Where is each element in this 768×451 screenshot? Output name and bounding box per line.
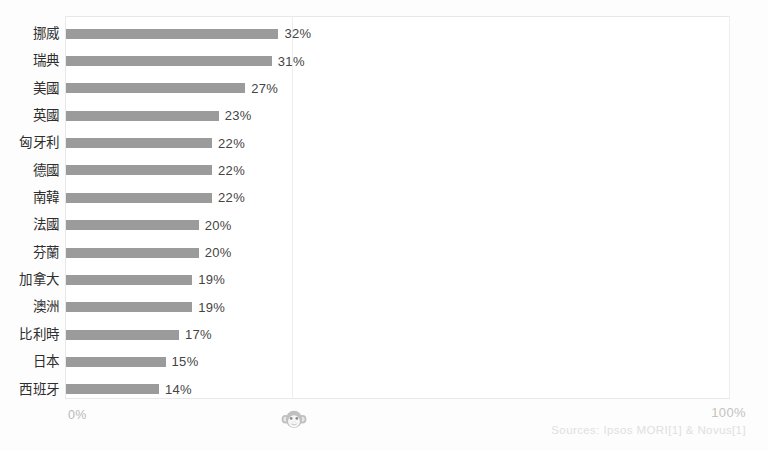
bar [66, 275, 192, 285]
bar-track: 20% [66, 212, 730, 239]
bar-row: 南韓22% [0, 184, 768, 211]
bar-value-label: 22% [218, 190, 245, 205]
bar [66, 165, 212, 175]
bar-value-label: 22% [218, 136, 245, 151]
bar [66, 193, 212, 203]
bar [66, 29, 278, 39]
bar-row: 日本15% [0, 348, 768, 375]
bar-row: 澳洲19% [0, 294, 768, 321]
bar-track: 17% [66, 321, 730, 348]
bar-value-label: 22% [218, 163, 245, 178]
bar-track: 22% [66, 129, 730, 156]
bar-row: 芬蘭20% [0, 239, 768, 266]
bar-track: 19% [66, 266, 730, 293]
bar-category-label: 美國 [0, 82, 59, 96]
bar-category-label: 挪威 [0, 27, 59, 41]
bar [66, 357, 166, 367]
bar [66, 138, 212, 148]
bar-track: 31% [66, 47, 730, 74]
bar-track: 14% [66, 376, 730, 403]
bar [66, 248, 199, 258]
bar [66, 330, 179, 340]
bar [66, 384, 159, 394]
bar-track: 23% [66, 102, 730, 129]
bar-track: 19% [66, 294, 730, 321]
bar [66, 111, 219, 121]
bar-category-label: 日本 [0, 355, 59, 369]
bar-row: 匈牙利22% [0, 129, 768, 156]
bar-value-label: 20% [205, 218, 232, 233]
bar-track: 22% [66, 184, 730, 211]
bar-row: 瑞典31% [0, 47, 768, 74]
bar-track: 32% [66, 20, 730, 47]
bar-category-label: 法國 [0, 218, 59, 232]
bar [66, 56, 272, 66]
bar-category-label: 德國 [0, 164, 59, 178]
bar-value-label: 19% [198, 300, 225, 315]
monkey-face-icon [281, 407, 307, 433]
bar-track: 15% [66, 348, 730, 375]
source-attribution: Sources: Ipsos MORI[1] & Novus[1] [551, 424, 746, 436]
bar-category-label: 南韓 [0, 191, 59, 205]
bar-track: 20% [66, 239, 730, 266]
bar [66, 302, 192, 312]
bar-value-label: 23% [225, 108, 252, 123]
bar-row: 美國27% [0, 75, 768, 102]
bar-row: 西班牙14% [0, 376, 768, 403]
bar-value-label: 17% [185, 327, 212, 342]
bar-track: 22% [66, 157, 730, 184]
bar-category-label: 比利時 [0, 328, 59, 342]
bar-category-label: 西班牙 [0, 383, 59, 397]
x-axis-max-label: 100% [711, 405, 746, 420]
bar-value-label: 14% [165, 382, 192, 397]
bar-category-label: 匈牙利 [0, 136, 59, 150]
bar-row: 加拿大19% [0, 266, 768, 293]
bar-value-label: 19% [198, 272, 225, 287]
bar-category-label: 澳洲 [0, 300, 59, 314]
bar-value-label: 27% [251, 81, 278, 96]
bar-row: 挪威32% [0, 20, 768, 47]
bar-row: 英國23% [0, 102, 768, 129]
bar-rows-container: 挪威32%瑞典31%美國27%英國23%匈牙利22%德國22%南韓22%法國20… [0, 16, 768, 399]
bar-row: 法國20% [0, 212, 768, 239]
bar-category-label: 芬蘭 [0, 246, 59, 260]
bar-row: 德國22% [0, 157, 768, 184]
bar-track: 27% [66, 75, 730, 102]
bar-category-label: 加拿大 [0, 273, 59, 287]
bar-value-label: 31% [278, 54, 305, 69]
bar-value-label: 20% [205, 245, 232, 260]
bar [66, 83, 245, 93]
bar [66, 220, 199, 230]
bar-value-label: 32% [284, 26, 311, 41]
bar-chart: 挪威32%瑞典31%美國27%英國23%匈牙利22%德國22%南韓22%法國20… [0, 0, 768, 451]
bar-category-label: 瑞典 [0, 54, 59, 68]
bar-value-label: 15% [172, 354, 199, 369]
bar-category-label: 英國 [0, 109, 59, 123]
x-axis-min-label: 0% [68, 408, 87, 422]
bar-row: 比利時17% [0, 321, 768, 348]
